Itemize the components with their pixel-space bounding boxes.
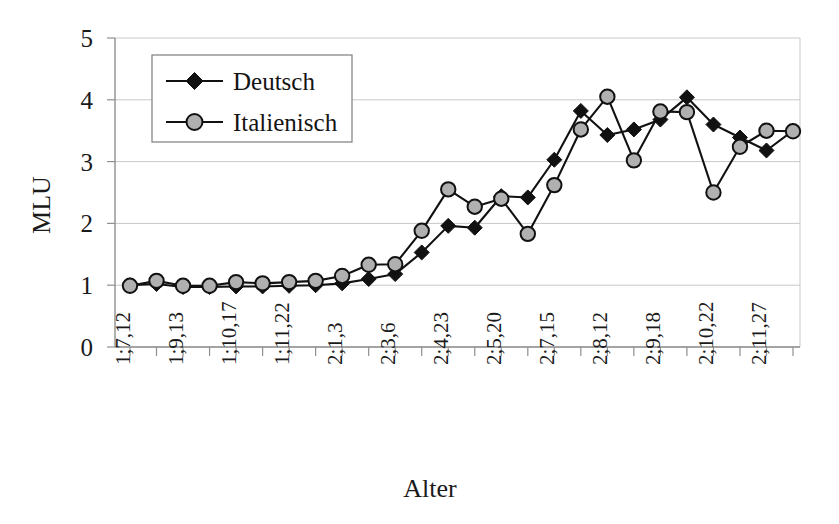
data-point-marker-circle — [786, 124, 800, 138]
x-category-label-0: 1;7,12 — [111, 312, 135, 365]
data-point-marker-circle — [361, 258, 375, 272]
data-point-marker-circle — [733, 140, 747, 154]
legend-label-deutsch: Deutsch — [233, 68, 315, 95]
x-category-label-2: 1;10,17 — [217, 301, 241, 365]
data-point-marker-circle — [706, 185, 720, 199]
y-tick-label-4: 4 — [81, 87, 94, 114]
y-tick-label-1: 1 — [81, 272, 94, 299]
data-point-marker-circle — [759, 124, 773, 138]
data-point-marker-diamond — [626, 122, 641, 137]
y-tick-label-0: 0 — [81, 334, 94, 361]
x-category-label-4: 2;1,3 — [323, 322, 347, 365]
chart-container: 012345 1;7,121;9,131;10,171;11,222;1,32;… — [0, 0, 839, 524]
x-category-label-5: 2;3,6 — [376, 322, 400, 365]
x-category-label-1: 1;9,13 — [164, 312, 188, 365]
data-point-marker-circle — [494, 191, 508, 205]
legend: Deutsch Italienisch — [152, 55, 352, 142]
data-point-marker-circle — [653, 104, 667, 118]
y-tick-label-3: 3 — [81, 149, 94, 176]
x-category-label-8: 2;7,15 — [535, 312, 559, 365]
data-point-marker-circle — [415, 224, 429, 238]
y-tick-label-2: 2 — [81, 210, 94, 237]
x-category-label-6: 2;4,23 — [429, 312, 453, 365]
mlu-line-chart: 012345 1;7,121;9,131;10,171;11,222;1,32;… — [0, 0, 839, 524]
data-point-marker-circle — [547, 178, 561, 192]
data-point-marker-circle — [574, 122, 588, 136]
x-category-label-11: 2;10,22 — [694, 301, 718, 365]
data-point-marker-circle — [600, 90, 614, 104]
data-point-marker-circle — [468, 200, 482, 214]
data-point-marker-diamond — [520, 190, 535, 205]
data-point-marker-circle — [308, 274, 322, 288]
x-category-label-7: 2;5,20 — [482, 312, 506, 365]
data-point-marker-circle — [229, 275, 243, 289]
data-point-marker-circle — [521, 227, 535, 241]
data-point-marker-circle — [123, 279, 137, 293]
data-point-marker-circle — [176, 279, 190, 293]
x-category-label-10: 2;9,18 — [641, 312, 665, 365]
legend-marker-gray-circle-icon — [187, 114, 203, 130]
data-point-marker-circle — [149, 274, 163, 288]
x-category-label-9: 2;8,12 — [588, 312, 612, 365]
x-category-label-12: 2;11,27 — [747, 302, 771, 365]
x-axis-title: Alter — [403, 474, 457, 503]
data-point-marker-circle — [282, 275, 296, 289]
legend-label-italienisch: Italienisch — [233, 109, 338, 136]
data-point-marker-circle — [255, 276, 269, 290]
y-axis-tick-labels: 012345 — [81, 25, 116, 361]
data-point-marker-circle — [441, 182, 455, 196]
y-axis-title: MLU — [27, 176, 56, 234]
data-point-marker-circle — [335, 269, 349, 283]
data-point-marker-circle — [388, 257, 402, 271]
data-point-marker-circle — [680, 105, 694, 119]
y-tick-label-5: 5 — [81, 25, 94, 52]
x-category-label-3: 1;11,22 — [270, 302, 294, 365]
data-point-marker-diamond — [361, 272, 376, 287]
data-point-marker-diamond — [759, 143, 774, 158]
data-point-marker-diamond — [547, 152, 562, 167]
data-point-marker-circle — [202, 279, 216, 293]
data-point-marker-circle — [627, 153, 641, 167]
